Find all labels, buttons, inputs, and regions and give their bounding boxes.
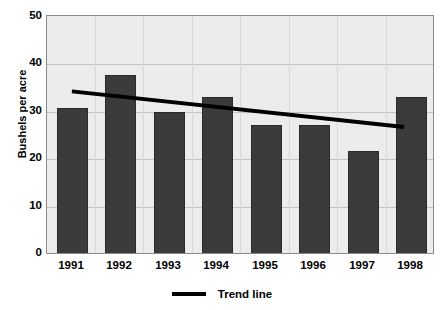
x-tick-label-1993: 1993 — [144, 258, 192, 272]
x-tick-label-1992: 1992 — [95, 258, 143, 272]
y-axis-tick-labels: 50 40 30 20 10 0 — [14, 0, 42, 310]
y-tick-label-40: 40 — [16, 57, 42, 68]
y-tick-label-50: 50 — [16, 10, 42, 21]
y-tick-label-20: 20 — [16, 152, 42, 163]
x-tick-label-1995: 1995 — [241, 258, 289, 272]
chart-legend: Trend line — [0, 285, 444, 303]
y-tick-label-0: 0 — [16, 247, 42, 258]
legend-swatch-trend-line — [172, 292, 206, 296]
x-tick-label-1997: 1997 — [338, 258, 386, 272]
plot-area — [46, 15, 434, 254]
y-tick-label-10: 10 — [16, 200, 42, 211]
x-tick-label-1998: 1998 — [386, 258, 434, 272]
trend-line — [47, 16, 433, 253]
x-tick-label-1991: 1991 — [47, 258, 95, 272]
y-tick-label-30: 30 — [16, 105, 42, 116]
x-tick-label-1994: 1994 — [192, 258, 240, 272]
x-axis-tick-labels: 1991 1992 1993 1994 1995 1996 1997 1998 — [46, 258, 434, 274]
legend-label-trend-line: Trend line — [218, 288, 272, 300]
bar-chart-figure: Bushels per acre 50 40 30 20 10 0 — [0, 0, 444, 310]
x-tick-label-1996: 1996 — [289, 258, 337, 272]
